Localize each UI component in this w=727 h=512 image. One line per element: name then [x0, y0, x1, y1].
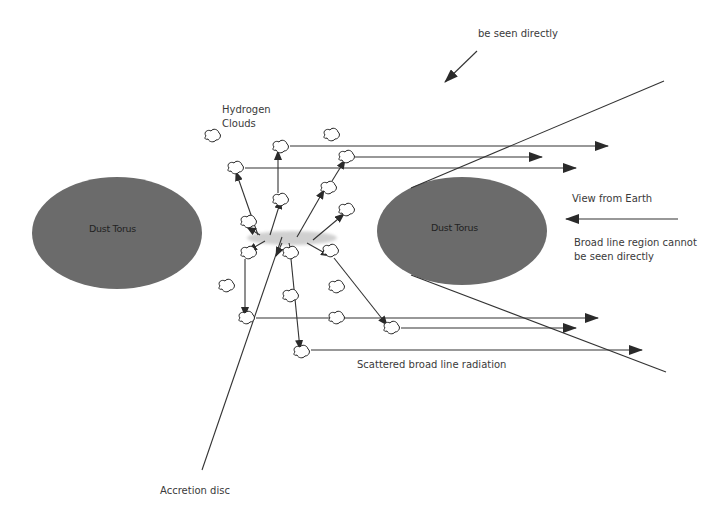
- hydrogen-cloud: [205, 129, 220, 142]
- hydrogen-cloud: [241, 246, 256, 259]
- hydrogen-cloud: [283, 246, 298, 259]
- hydrogen-label-line1: Hydrogen: [222, 103, 271, 117]
- emission-arrow: [332, 160, 345, 181]
- accretion-disc-glow: [247, 231, 337, 245]
- hydrogen-cloud: [273, 193, 288, 206]
- hydrogen-cloud: [384, 321, 399, 334]
- hydrogen-cloud: [329, 280, 344, 293]
- top-note-label: be seen directly: [478, 27, 558, 41]
- hydrogen-cloud: [241, 215, 256, 228]
- cone-upper-line: [411, 81, 664, 188]
- radial-emission-arrows: [236, 151, 387, 349]
- accretion-pointer-line: [202, 237, 282, 470]
- hydrogen-cloud: [228, 161, 243, 174]
- top-note-arrow: [445, 51, 477, 82]
- emission-arrow: [297, 190, 324, 237]
- dust-torus-right-label: Dust Torus: [431, 222, 478, 233]
- hydrogen-cloud: [219, 279, 234, 292]
- hydrogen-cloud: [283, 289, 298, 302]
- hydrogen-label-line2: Clouds: [222, 117, 271, 131]
- hydrogen-cloud: [323, 244, 338, 257]
- hydrogen-cloud: [324, 128, 339, 141]
- view-from-earth-label: View from Earth: [572, 192, 652, 206]
- accretion-disc-label: Accretion disc: [160, 484, 230, 498]
- accretion-disc: [247, 231, 337, 245]
- hydrogen-clouds-label: Hydrogen Clouds: [222, 103, 271, 131]
- hydrogen-cloud: [329, 311, 344, 324]
- hydrogen-cloud: [339, 203, 354, 216]
- dust-torus-left-label: Dust Torus: [89, 223, 136, 234]
- scattered-radiation-label: Scattered broad line radiation: [357, 358, 506, 372]
- hydrogen-cloud: [273, 140, 288, 153]
- blr-label-line2: be seen directly: [574, 250, 697, 264]
- emission-arrow: [291, 259, 300, 349]
- broad-line-region-label: Broad line region cannot be seen directl…: [574, 236, 697, 264]
- agn-diagram: be seen directly Hydrogen Clouds Dust To…: [0, 0, 727, 512]
- hydrogen-cloud: [339, 150, 354, 163]
- hydrogen-cloud: [239, 311, 254, 324]
- hydrogen-cloud: [294, 345, 309, 358]
- blr-label-line1: Broad line region cannot: [574, 236, 697, 250]
